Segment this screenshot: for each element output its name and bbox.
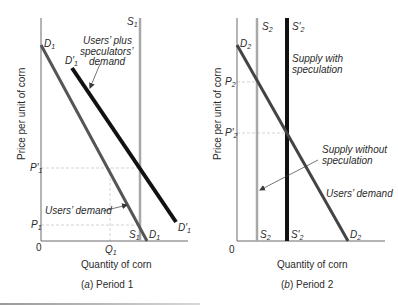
supply-with-line2: speculation: [292, 64, 343, 75]
label-p1: P1: [31, 219, 42, 231]
label-p2-prime: P′2: [225, 127, 238, 139]
panel-b-period-2: S2 S′2 D2 Supply with speculation Supply…: [212, 18, 393, 290]
y-axis-title-a: Price per unit of corn: [16, 68, 27, 160]
users-plus-line1: Users’ plus: [83, 35, 132, 46]
supply-without-line1: Supply without: [322, 144, 388, 155]
origin-a: 0: [36, 242, 42, 253]
supply-with-line1: Supply with: [292, 53, 344, 64]
users-plus-line3: demand: [89, 56, 126, 67]
label-d1-prime-bottom: D′1: [178, 222, 191, 234]
users-demand-label-a: Users’ demand: [45, 205, 112, 216]
x-axis-title-a: Quantity of corn: [81, 259, 152, 270]
label-s2-top: S2: [262, 21, 273, 33]
origin-b: 0: [229, 244, 235, 255]
label-p2: P2: [225, 76, 236, 88]
label-d1-bottom: D1: [149, 229, 160, 241]
label-d2-bottom: D2: [350, 229, 361, 241]
label-d1-top: D1: [44, 38, 55, 50]
caption-a: (a) Period 1: [81, 279, 134, 290]
y-axis-title-b: Price per unit of corn: [212, 68, 223, 160]
label-s2-prime-top: S′2: [292, 21, 305, 33]
label-s2-prime-bottom: S′2: [291, 229, 304, 241]
users-plus-arrow: [90, 64, 100, 88]
speculation-diagram: S1 D1 D′1 Users’ plus speculators’ deman…: [0, 0, 398, 305]
label-d1-prime-top: D′1: [65, 55, 78, 67]
panel-a-period-1: S1 D1 D′1 Users’ plus speculators’ deman…: [16, 16, 191, 290]
label-s2-bottom: S2: [260, 229, 271, 241]
label-s1-bottom: S1: [129, 229, 140, 241]
users-demand-label-b: Users’ demand: [326, 188, 393, 199]
caption-b: (b) Period 2: [281, 279, 334, 290]
x-axis-title-b: Quantity of corn: [277, 259, 348, 270]
label-d2-top: D2: [240, 38, 251, 50]
supply-without-line2: speculation: [322, 155, 373, 166]
label-q1: Q1: [105, 244, 117, 256]
label-s1-top: S1: [127, 16, 138, 28]
